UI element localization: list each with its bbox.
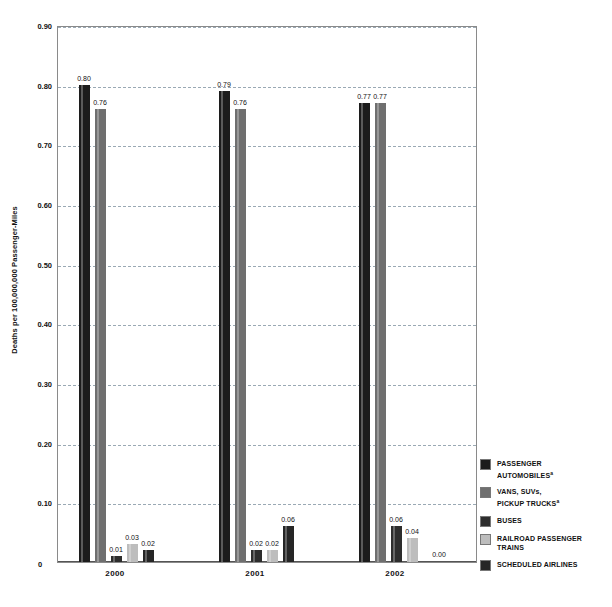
bar-highlight: [393, 526, 395, 562]
bar-slot: 0.04: [407, 25, 418, 562]
bar-highlight: [361, 103, 363, 562]
bar-value-label: 0.77: [357, 93, 371, 100]
x-tick-label-2001: 2001: [245, 569, 264, 578]
legend-item[interactable]: VANS, SUVs,PICKUP TRUCKSa: [480, 487, 608, 508]
y-axis-zero-label: 0: [38, 560, 42, 569]
x-tick-label-2000: 2000: [105, 569, 124, 578]
legend-label-line2: TRAINS: [497, 543, 582, 553]
legend-label-line2: PICKUP TRUCKSa: [497, 497, 559, 509]
bar-value-label: 0.00: [432, 551, 446, 558]
bar-value-label: 0.04: [405, 528, 419, 535]
legend-label-line1: VANS, SUVs,: [497, 487, 559, 497]
legend-label: VANS, SUVs,PICKUP TRUCKSa: [497, 487, 559, 508]
legend-label-line1: SCHEDULED AIRLINES: [497, 560, 578, 570]
y-tick-label: 0.20: [6, 439, 52, 448]
y-tick-label: 0.10: [6, 499, 52, 508]
bar-slot: 0.77: [375, 25, 386, 562]
legend-label: BUSES: [497, 516, 522, 526]
plot-area: 0.800.760.010.030.020.790.760.020.020.06…: [57, 26, 477, 563]
legend-label-line2: AUTOMOBILESa: [497, 469, 553, 481]
y-tick-label: 0.80: [6, 81, 52, 90]
legend-label-line1: RAILROAD PASSENGER: [497, 534, 582, 544]
legend-label: RAILROAD PASSENGERTRAINS: [497, 534, 582, 553]
legend-item[interactable]: BUSES: [480, 516, 608, 527]
bar-chart: Deaths per 100,000,000 Passenger-Miles 0…: [0, 0, 612, 607]
legend-label: SCHEDULED AIRLINES: [497, 560, 578, 570]
bar-value-label: 0.06: [389, 516, 403, 523]
legend-label: PASSENGERAUTOMOBILESa: [497, 459, 553, 480]
y-axis-ticks: 0.900.800.700.600.500.400.300.200.10: [0, 26, 52, 563]
legend-swatch: [480, 560, 491, 571]
legend-item[interactable]: PASSENGERAUTOMOBILESa: [480, 459, 608, 480]
legend-swatch: [480, 487, 491, 498]
bar-slot: 0.00: [423, 25, 434, 562]
bar-highlight: [377, 103, 379, 562]
x-axis-ticks: 200020012002: [57, 569, 477, 587]
y-tick-label: 0.50: [6, 260, 52, 269]
y-tick-label: 0.40: [6, 320, 52, 329]
legend-item[interactable]: SCHEDULED AIRLINES: [480, 560, 608, 571]
y-tick-label: 0.60: [6, 201, 52, 210]
bar-slot: 0.06: [391, 25, 402, 562]
y-tick-label: 0.30: [6, 380, 52, 389]
legend-label-line1: BUSES: [497, 516, 522, 526]
legend-label-line1: PASSENGER: [497, 459, 553, 469]
y-tick-label: 0.90: [6, 22, 52, 31]
bar-highlight: [409, 538, 411, 562]
x-tick-label-2002: 2002: [385, 569, 404, 578]
y-tick-label: 0.70: [6, 141, 52, 150]
legend-item[interactable]: RAILROAD PASSENGERTRAINS: [480, 534, 608, 553]
bar[interactable]: [391, 526, 402, 562]
chart-legend: PASSENGERAUTOMOBILESaVANS, SUVs,PICKUP T…: [480, 459, 608, 578]
bar[interactable]: [359, 103, 370, 562]
legend-swatch: [480, 534, 491, 545]
bar-value-label: 0.77: [373, 93, 387, 100]
legend-swatch: [480, 516, 491, 527]
bar-group-2002: 0.770.770.060.040.00: [58, 27, 478, 562]
bar-slot: 0.77: [359, 25, 370, 562]
legend-swatch: [480, 459, 491, 470]
bar[interactable]: [375, 103, 386, 562]
bar[interactable]: [407, 538, 418, 562]
